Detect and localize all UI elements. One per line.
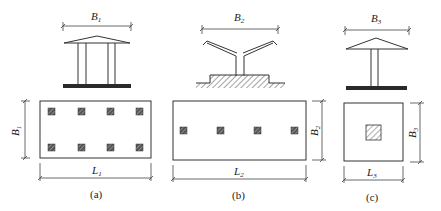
column-c: [371, 49, 378, 87]
y-canopy-b: [203, 41, 277, 76]
label-b1-top: B1: [91, 10, 101, 24]
label-l1: L1: [91, 164, 102, 178]
dimension-l2: L2: [171, 165, 308, 182]
base-b: [196, 75, 285, 88]
column-squares-b: [180, 127, 298, 134]
column-squares-a: [48, 108, 143, 151]
label-b1-side: B1: [9, 126, 23, 136]
label-l3: L3: [366, 166, 377, 180]
columns-a: [78, 43, 115, 85]
roof-a: [64, 36, 130, 43]
label-b2-side: B2: [308, 125, 322, 136]
plan-b: B2 L2: [171, 99, 326, 182]
label-l2: L2: [233, 165, 244, 179]
roof-c: [346, 38, 408, 49]
label-b3-side: B3: [406, 127, 420, 138]
elevation-a: B1: [61, 10, 133, 88]
panel-c: B3 B3: [342, 12, 424, 204]
base-c: [346, 86, 407, 90]
dimension-b1-side: B1: [9, 99, 30, 160]
elevation-c: B3: [343, 12, 411, 90]
plan-c: B3 L3: [342, 101, 424, 183]
dimension-b2-side: B2: [308, 99, 326, 162]
dimension-b3-top: B3: [343, 12, 411, 35]
dimension-b1-top: B1: [61, 10, 133, 31]
caption-a: (a): [90, 188, 103, 201]
label-b3-top: B3: [371, 12, 382, 26]
elevation-b: B2: [196, 11, 285, 88]
base-a: [63, 84, 131, 88]
plan-a: B1 L1: [9, 99, 153, 181]
dimension-l1: L1: [38, 163, 153, 181]
caption-b: (b): [232, 189, 245, 202]
dimension-l3: L3: [342, 166, 405, 183]
canopy-diagram: B1: [0, 0, 441, 211]
dimension-b3-side: B3: [406, 101, 424, 164]
dimension-b2-top: B2: [200, 11, 280, 34]
caption-c: (c): [366, 191, 379, 204]
panel-a: B1: [9, 10, 153, 201]
panel-b: B2: [171, 11, 326, 202]
label-b2-top: B2: [234, 11, 245, 25]
